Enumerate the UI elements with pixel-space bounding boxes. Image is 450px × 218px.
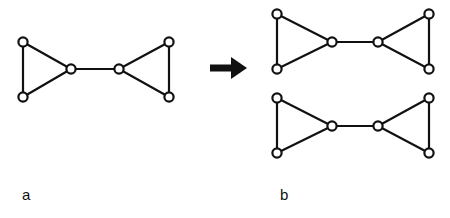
arrow-head [231,57,247,79]
node-top-right [424,93,433,102]
node-bottom-right [424,148,433,157]
node-bottom-left [18,92,27,101]
node-middle-right [373,37,382,46]
edge-top-right-diagonal [378,98,429,126]
edge-bottom-right-diagonal [119,69,169,97]
node-top-right [164,37,173,46]
panel-label-a: a [22,186,31,203]
node-middle-left [327,37,336,46]
figure-container: ab [0,0,450,218]
edge-top-left-diagonal [277,98,332,126]
node-bottom-left [272,148,281,157]
node-top-left [18,37,27,46]
node-top-right [424,9,433,18]
panel-labels-layer: ab [22,186,288,203]
edge-top-right-diagonal [119,42,169,69]
node-top-left [272,93,281,102]
graph-diagram-canvas: ab [0,0,450,218]
node-bottom-left [272,64,281,73]
edge-top-left-diagonal [277,14,332,42]
edge-bottom-left-diagonal [277,42,332,69]
edge-bottom-right-diagonal [378,126,429,153]
node-top-left [272,9,281,18]
panel-label-b: b [280,186,288,203]
edge-bottom-left-diagonal [277,126,332,153]
graphs-layer [18,9,433,157]
node-middle-left [327,121,336,130]
node-middle-right [373,121,382,130]
node-bottom-right [164,92,173,101]
edge-top-right-diagonal [378,14,429,42]
node-middle-left [66,64,75,73]
edge-top-left-diagonal [23,42,71,69]
edge-bottom-right-diagonal [378,42,429,69]
transform-arrow [210,57,247,79]
graph-b-top [272,9,433,73]
node-bottom-right [424,64,433,73]
arrow-shaft [210,65,233,72]
node-middle-right [114,64,123,73]
edge-bottom-left-diagonal [23,69,71,97]
graph-b-bottom [272,93,433,157]
graph-a [18,37,173,101]
